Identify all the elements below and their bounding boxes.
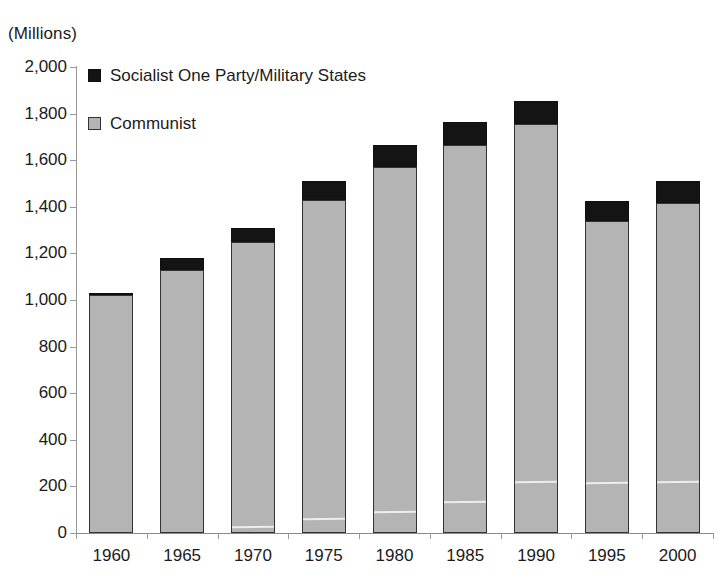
bar-group[interactable] xyxy=(302,67,346,533)
x-axis-line xyxy=(76,533,713,534)
x-axis-tick-label: 1970 xyxy=(218,546,289,566)
bar-group[interactable] xyxy=(89,67,133,533)
bar-group[interactable] xyxy=(656,67,700,533)
plot-area xyxy=(76,67,712,533)
y-axis-tick-label: 0 xyxy=(58,523,67,542)
x-axis-tick-label: 1990 xyxy=(501,546,572,566)
bar-group[interactable] xyxy=(231,67,275,533)
bar-segment-communist[interactable] xyxy=(302,200,346,533)
x-axis-tick-mark xyxy=(642,533,643,539)
bar-segment-socialist[interactable] xyxy=(443,122,487,145)
legend-swatch-socialist-icon xyxy=(88,69,101,82)
legend-item-communist[interactable]: Communist xyxy=(88,114,196,133)
y-axis-tick-label: 1,400 xyxy=(24,197,67,216)
bar-group[interactable] xyxy=(585,67,629,533)
bar-segment-socialist[interactable] xyxy=(373,145,417,167)
bar-segment-socialist[interactable] xyxy=(302,181,346,200)
legend-label-communist: Communist xyxy=(110,114,196,133)
bar-segment-communist[interactable] xyxy=(514,124,558,533)
bar-group[interactable] xyxy=(373,67,417,533)
bar-segment-communist[interactable] xyxy=(231,242,275,533)
bar-segment-socialist[interactable] xyxy=(585,201,629,221)
legend-item-socialist[interactable]: Socialist One Party/Military States xyxy=(88,66,366,85)
y-axis-tick-label: 1,600 xyxy=(24,150,67,169)
y-axis-unit-caption: (Millions) xyxy=(8,24,77,44)
bar-segment-communist[interactable] xyxy=(656,203,700,533)
bar-segment-socialist[interactable] xyxy=(160,258,204,270)
x-axis-tick-mark xyxy=(430,533,431,539)
bar-segment-communist[interactable] xyxy=(585,221,629,533)
x-axis-tick-mark xyxy=(501,533,502,539)
x-axis-tick-mark xyxy=(571,533,572,539)
y-axis-tick-label: 600 xyxy=(39,383,67,402)
x-axis-tick-mark xyxy=(76,533,77,539)
bar-group[interactable] xyxy=(514,67,558,533)
x-axis-tick-mark xyxy=(359,533,360,539)
legend-label-socialist: Socialist One Party/Military States xyxy=(110,66,366,85)
x-axis-tick-label: 1975 xyxy=(288,546,359,566)
legend-swatch-communist-icon xyxy=(88,117,101,130)
x-axis-tick-mark xyxy=(218,533,219,539)
x-axis-tick-label: 1980 xyxy=(359,546,430,566)
x-axis-tick-label: 1985 xyxy=(430,546,501,566)
x-axis-tick-label: 1965 xyxy=(147,546,218,566)
y-axis-tick-label: 800 xyxy=(39,337,67,356)
y-axis-tick-label: 1,200 xyxy=(24,243,67,262)
x-axis-tick-label: 1995 xyxy=(571,546,642,566)
y-axis-tick-label: 1,000 xyxy=(24,290,67,309)
bar-segment-communist[interactable] xyxy=(89,295,133,533)
bar-segment-socialist[interactable] xyxy=(514,101,558,124)
population-by-government-type-chart: (Millions) 02004006008001,0001,2001,4001… xyxy=(0,0,722,585)
bar-group[interactable] xyxy=(160,67,204,533)
bar-segment-socialist[interactable] xyxy=(231,228,275,242)
y-axis-tick-label: 1,800 xyxy=(24,104,67,123)
bar-segment-socialist[interactable] xyxy=(656,181,700,203)
x-axis-tick-label: 2000 xyxy=(642,546,713,566)
bar-group[interactable] xyxy=(443,67,487,533)
x-axis-tick-mark xyxy=(147,533,148,539)
y-axis-tick-label: 200 xyxy=(39,476,67,495)
bar-segment-communist[interactable] xyxy=(443,145,487,533)
bar-segment-socialist[interactable] xyxy=(89,293,133,295)
bar-segment-communist[interactable] xyxy=(373,167,417,533)
x-axis-tick-label: 1960 xyxy=(76,546,147,566)
bar-segment-communist[interactable] xyxy=(160,270,204,533)
y-axis-tick-label: 2,000 xyxy=(24,57,67,76)
x-axis-tick-mark xyxy=(288,533,289,539)
x-axis-tick-mark xyxy=(713,533,714,539)
y-axis-tick-label: 400 xyxy=(39,430,67,449)
